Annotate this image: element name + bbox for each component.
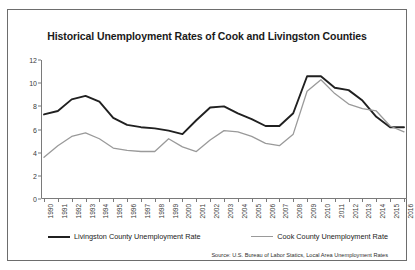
x-tick-label: 2001: [199, 204, 206, 218]
x-tick-mark: [335, 199, 336, 202]
x-tick-label: 1997: [144, 204, 151, 218]
x-tick-label: 1998: [158, 204, 165, 218]
x-tick-label: 2006: [269, 204, 276, 218]
x-tick-label: 1992: [75, 204, 82, 218]
chart-svg: [41, 60, 407, 199]
x-tick-mark: [141, 199, 142, 202]
x-tick-label: 2005: [255, 204, 262, 218]
x-tick-mark: [155, 199, 156, 202]
x-tick-mark: [404, 199, 405, 202]
x-tick-label: 2009: [310, 204, 317, 218]
x-tick-mark: [196, 199, 197, 202]
legend-item-livingston: Livingston County Unemployment Rate: [48, 232, 201, 241]
x-tick-mark: [321, 199, 322, 202]
series-line-0: [44, 76, 404, 134]
x-tick-mark: [182, 199, 183, 202]
x-tick-mark: [307, 199, 308, 202]
x-tick-mark: [390, 199, 391, 202]
x-tick-mark: [113, 199, 114, 202]
y-tick-mark: [38, 106, 41, 107]
x-tick-label: 1993: [89, 204, 96, 218]
x-tick-mark: [252, 199, 253, 202]
x-tick-mark: [86, 199, 87, 202]
y-tick-mark: [38, 129, 41, 130]
y-tick-mark: [38, 199, 41, 200]
x-tick-mark: [224, 199, 225, 202]
x-tick-mark: [169, 199, 170, 202]
x-tick-mark: [99, 199, 100, 202]
x-tick-label: 2002: [213, 204, 220, 218]
series-line-1: [44, 80, 404, 158]
x-tick-mark: [238, 199, 239, 202]
x-tick-mark: [349, 199, 350, 202]
x-tick-label: 2008: [296, 204, 303, 218]
legend-line-icon-cook: [251, 236, 273, 237]
x-tick-label: 1996: [130, 204, 137, 218]
x-tick-label: 2011: [338, 204, 345, 218]
x-tick-mark: [58, 199, 59, 202]
chart-legend: Livingston County Unemployment Rate Cook…: [48, 232, 388, 241]
chart-title: Historical Unemployment Rates of Cook an…: [8, 30, 406, 42]
chart-frame: Historical Unemployment Rates of Cook an…: [7, 9, 407, 261]
x-tick-label: 1999: [172, 204, 179, 218]
x-tick-mark: [72, 199, 73, 202]
source-note: Source: U.S. Bureau of Labor Statics, Lo…: [211, 252, 388, 258]
chart-figure: Historical Unemployment Rates of Cook an…: [0, 0, 415, 270]
x-tick-label: 2014: [379, 204, 386, 218]
x-tick-mark: [362, 199, 363, 202]
x-tick-label: 2016: [407, 204, 414, 218]
legend-item-cook: Cook County Unemployment Rate: [251, 232, 388, 241]
x-tick-mark: [210, 199, 211, 202]
x-tick-mark: [127, 199, 128, 202]
x-tick-label: 1991: [61, 204, 68, 218]
x-tick-label: 2000: [185, 204, 192, 218]
x-tick-label: 2012: [352, 204, 359, 218]
x-tick-mark: [44, 199, 45, 202]
x-tick-label: 2015: [393, 204, 400, 218]
x-tick-label: 2004: [241, 204, 248, 218]
axis-lines: [42, 60, 408, 199]
x-tick-label: 2003: [227, 204, 234, 218]
plot-area: 024681012 199019911992199319941995199619…: [41, 60, 407, 199]
x-tick-label: 2013: [365, 204, 372, 218]
y-tick-mark: [38, 60, 41, 61]
y-tick-mark: [38, 152, 41, 153]
x-tick-mark: [279, 199, 280, 202]
x-tick-label: 1994: [102, 204, 109, 218]
legend-label-livingston: Livingston County Unemployment Rate: [74, 232, 201, 241]
x-tick-label: 1995: [116, 204, 123, 218]
x-tick-label: 2010: [324, 204, 331, 218]
y-tick-mark: [38, 83, 41, 84]
x-tick-label: 2007: [282, 204, 289, 218]
x-tick-mark: [376, 199, 377, 202]
x-tick-mark: [293, 199, 294, 202]
y-tick-mark: [38, 175, 41, 176]
legend-label-cook: Cook County Unemployment Rate: [277, 232, 388, 241]
x-tick-mark: [266, 199, 267, 202]
x-tick-label: 1990: [47, 204, 54, 218]
legend-line-icon-livingston: [48, 236, 70, 238]
